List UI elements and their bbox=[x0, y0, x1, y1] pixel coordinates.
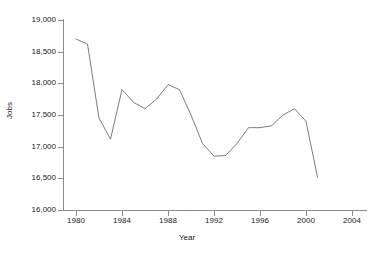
data-series-line bbox=[76, 39, 318, 177]
line-chart: 16,00016,50017,00017,50018,00018,50019,0… bbox=[0, 0, 374, 258]
series-plot-area bbox=[0, 0, 374, 258]
